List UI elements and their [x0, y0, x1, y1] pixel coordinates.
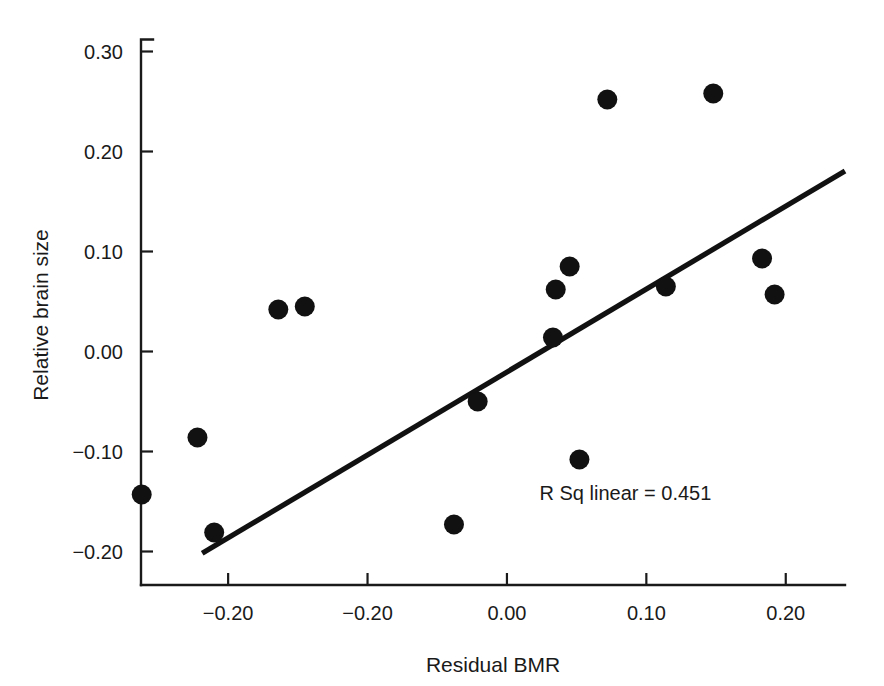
y-axis-title: Relative brain size [29, 229, 52, 401]
y-axis-tick-marks [141, 52, 153, 552]
x-tick-label: 0.00 [487, 602, 526, 624]
x-axis-title: Residual BMR [426, 653, 560, 676]
x-tick-label: 0.10 [627, 602, 666, 624]
r-squared-annotation: R Sq linear = 0.451 [540, 482, 712, 504]
y-tick-label: 0.10 [84, 241, 123, 263]
data-point [187, 428, 207, 448]
data-point [204, 523, 224, 543]
x-axis-tick-marks [228, 573, 786, 585]
y-tick-label: −0.10 [72, 441, 123, 463]
data-points-group [132, 84, 785, 543]
linear-fit-line-segment [202, 171, 845, 553]
x-axis-tick-labels: −0.20−0.200.000.100.20 [203, 602, 805, 624]
data-point [546, 280, 566, 300]
y-tick-label: 0.20 [84, 141, 123, 163]
data-point [468, 392, 488, 412]
data-point [752, 249, 772, 269]
data-point [295, 297, 315, 317]
data-point [703, 84, 723, 104]
scatter-chart-figure: 0.300.200.100.00−0.10−0.20 Relative brai… [0, 0, 884, 686]
data-point [132, 485, 152, 505]
y-axis-group: 0.300.200.100.00−0.10−0.20 Relative brai… [29, 40, 153, 586]
chart-annotations: R Sq linear = 0.451 [540, 482, 712, 504]
data-point [656, 277, 676, 297]
data-point [569, 450, 589, 470]
data-point [268, 300, 288, 320]
data-point [444, 515, 464, 535]
chart-canvas: 0.300.200.100.00−0.10−0.20 Relative brai… [0, 0, 884, 686]
y-tick-label: 0.30 [84, 41, 123, 63]
linear-fit-line [202, 171, 845, 553]
y-tick-label: −0.20 [72, 541, 123, 563]
data-point [560, 257, 580, 277]
data-point [765, 285, 785, 305]
data-point [597, 90, 617, 110]
x-tick-label: −0.20 [203, 602, 254, 624]
x-tick-label: −0.20 [342, 602, 393, 624]
x-tick-label: 0.20 [766, 602, 805, 624]
y-tick-label: 0.00 [84, 341, 123, 363]
x-axis-group: −0.20−0.200.000.100.20 Residual BMR [141, 573, 845, 676]
data-point [543, 328, 563, 348]
y-axis-tick-labels: 0.300.200.100.00−0.10−0.20 [72, 41, 123, 563]
